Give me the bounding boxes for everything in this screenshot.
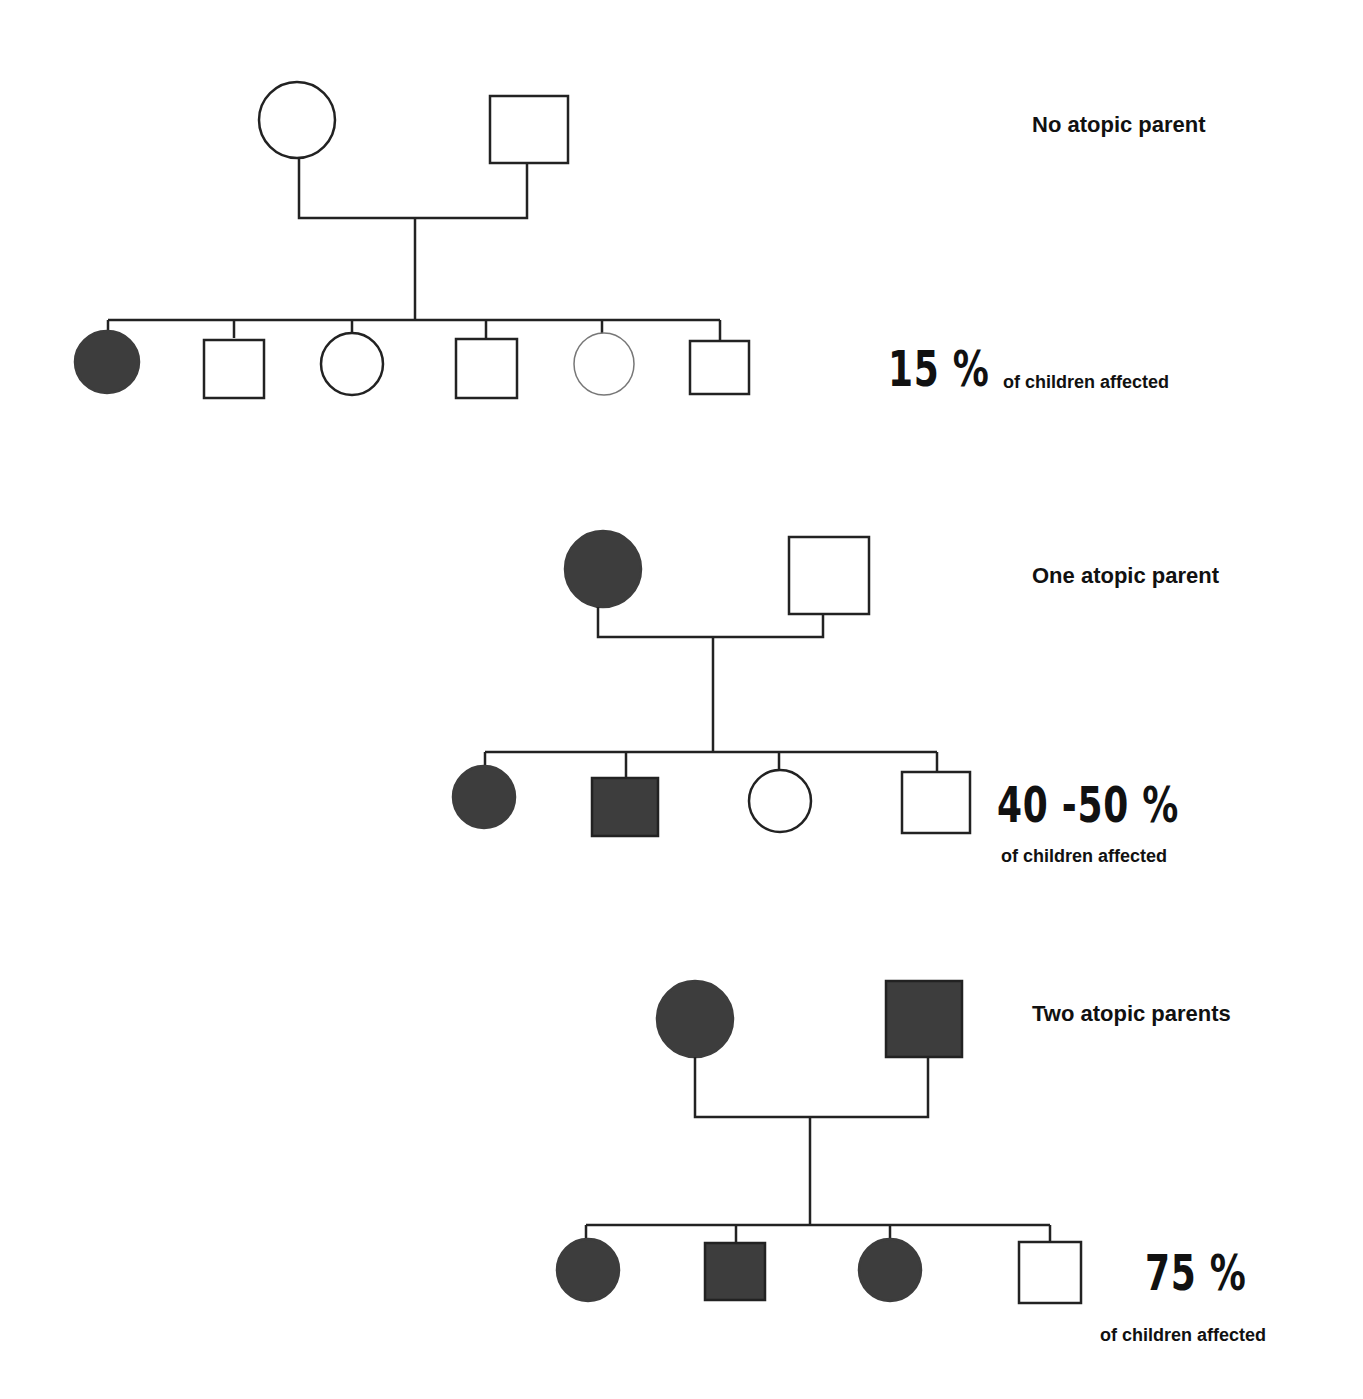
caption: of children affected: [1003, 372, 1169, 393]
panel-title: One atopic parent: [1032, 563, 1219, 589]
panel-two-atopic-parents: [557, 981, 1081, 1303]
child-daughter-unaffected: [749, 770, 811, 832]
panel-no-atopic-parent: [75, 82, 749, 398]
child-daughter-affected: [859, 1239, 921, 1301]
caption: of children affected: [1001, 846, 1167, 867]
sibship-line: [485, 752, 937, 778]
parent-mother-affected: [657, 981, 733, 1057]
child-son-unaffected: [690, 341, 749, 394]
child-daughter-unaffected: [574, 333, 634, 395]
child-daughter-unaffected: [321, 333, 383, 395]
parent-father-unaffected: [490, 96, 568, 163]
child-son-unaffected: [204, 340, 264, 398]
percent-affected: 15 %: [888, 344, 990, 394]
mating-line: [695, 1057, 928, 1117]
child-son-affected: [705, 1243, 765, 1300]
child-son-affected: [592, 778, 658, 836]
sibship-line: [586, 1225, 1050, 1243]
percent-affected: 75 %: [1145, 1248, 1247, 1298]
parent-mother-unaffected: [259, 82, 335, 158]
child-daughter-affected: [557, 1239, 619, 1301]
child-daughter-affected: [453, 766, 515, 828]
child-son-unaffected: [456, 339, 517, 398]
panel-title: No atopic parent: [1032, 112, 1206, 138]
caption: of children affected: [1100, 1325, 1266, 1346]
parent-mother-affected: [565, 531, 641, 607]
child-son-unaffected: [1019, 1242, 1081, 1303]
parent-father-affected: [886, 981, 962, 1057]
child-daughter-affected: [75, 331, 139, 393]
sibship-line: [108, 320, 720, 340]
panel-title: Two atopic parents: [1032, 1001, 1231, 1027]
child-son-unaffected: [902, 772, 970, 833]
panel-one-atopic-parent: [453, 531, 970, 836]
mating-line: [299, 158, 527, 218]
percent-affected: 40 -50 %: [997, 780, 1179, 830]
pedigree-diagram: [0, 0, 1363, 1399]
parent-father-unaffected: [789, 537, 869, 614]
